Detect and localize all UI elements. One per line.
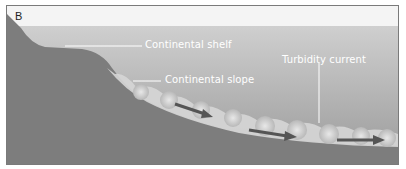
label-turbidity-current: Turbidity current <box>282 54 366 65</box>
surface-band <box>7 6 398 26</box>
label-continental-shelf: Continental shelf <box>145 39 232 50</box>
label-continental-slope: Continental slope <box>165 74 254 85</box>
ocean-floor-illustration <box>7 6 398 164</box>
diagram-frame: B Continental shelf Continental slope Tu… <box>6 5 399 165</box>
panel-label: B <box>15 10 22 22</box>
